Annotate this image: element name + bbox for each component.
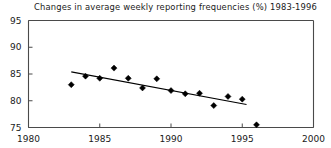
x-axis-tick-labels: 19801985199019952000 (17, 134, 325, 144)
chart-figure: Changes in average weekly reporting freq… (0, 0, 331, 148)
scatter-plot: 7580859095 19801985199019952000 (0, 0, 331, 148)
data-point-1983 (68, 82, 74, 88)
y-tick-label-85: 85 (10, 69, 21, 79)
data-point-1987 (125, 75, 131, 81)
x-tick-label-1980: 1980 (17, 134, 40, 144)
x-tick-label-1995: 1995 (231, 134, 254, 144)
data-point-1991 (182, 91, 188, 97)
data-point-group (68, 65, 259, 128)
data-point-1990 (168, 88, 174, 94)
y-tick-label-95: 95 (10, 16, 21, 26)
data-point-1993 (211, 103, 217, 109)
x-tick-label-2000: 2000 (302, 134, 325, 144)
y-axis-tick-marks (29, 21, 33, 128)
trend-line (71, 72, 246, 105)
data-point-1985 (97, 75, 103, 81)
data-point-1989 (154, 76, 160, 82)
y-tick-label-90: 90 (10, 42, 22, 52)
y-tick-label-80: 80 (10, 96, 22, 106)
data-point-1995 (239, 96, 245, 102)
data-point-1986 (111, 65, 117, 71)
x-tick-label-1985: 1985 (88, 134, 111, 144)
data-point-1996 (254, 122, 260, 128)
x-axis-tick-marks (29, 124, 314, 128)
y-tick-label-75: 75 (10, 123, 21, 133)
y-axis-tick-labels: 7580859095 (10, 16, 22, 133)
data-point-1994 (225, 93, 231, 99)
x-tick-label-1990: 1990 (160, 134, 183, 144)
